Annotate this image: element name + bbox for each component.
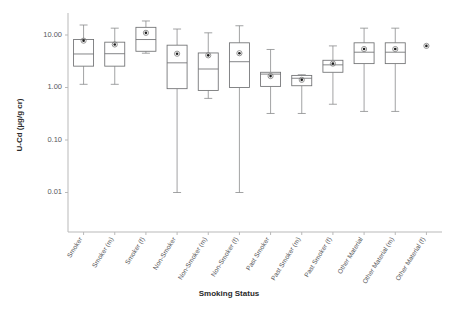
axis-titles: U-Cd (µg/g cr) Smoking Status [15, 98, 260, 298]
y-tick-label: 0.10 [47, 135, 62, 144]
y-tick-label: 10.00 [43, 30, 62, 39]
mean-marker [363, 48, 366, 51]
box-plot-item [354, 28, 374, 111]
box-plot-item [385, 28, 405, 111]
box-plot-item [323, 46, 343, 104]
box-plot-item [292, 75, 312, 114]
x-tick-label: Smoker [65, 235, 83, 259]
mean-marker [145, 32, 148, 35]
x-tick-label: Smoker (m) [90, 236, 115, 269]
x-tick-label: Non-Smoker (f) [209, 236, 240, 278]
x-tick-label: Non-Smoker [151, 235, 177, 271]
mean-marker [113, 43, 116, 46]
x-tick-label: Other Material (f) [394, 236, 427, 283]
box-series [74, 21, 429, 193]
box-iqr [354, 43, 374, 64]
mean-marker [332, 62, 335, 65]
box-plot-item [74, 25, 94, 84]
plot-canvas: 10.001.000.100.01 SmokerSmoker (m)Smoker… [0, 0, 450, 312]
box-plot-item [167, 29, 187, 192]
box-plot-chart: 10.001.000.100.01 SmokerSmoker (m)Smoker… [0, 0, 450, 312]
mean-marker [82, 39, 85, 42]
box-plot-item [198, 33, 218, 99]
box-iqr [198, 53, 218, 90]
mean-marker [176, 52, 179, 55]
x-tick-label: Past Smoker (f) [303, 236, 334, 279]
box-plot-item [424, 43, 429, 48]
box-plot-item [229, 26, 249, 193]
box-iqr [385, 43, 405, 64]
x-axis: SmokerSmoker (m)Smoker (f)Non-SmokerNon-… [65, 232, 442, 285]
x-tick-label: Other Material [336, 235, 364, 275]
mean-marker [394, 48, 397, 51]
box-plot-item [261, 49, 281, 113]
y-tick-label: 1.00 [47, 82, 62, 91]
mean-marker [425, 45, 428, 48]
x-tick-label: Other Material (m) [361, 236, 396, 286]
mean-marker [238, 52, 241, 55]
mean-marker [207, 54, 210, 57]
x-tick-label: Past Smoker (m) [269, 236, 302, 282]
box-plot-item [136, 21, 156, 53]
y-axis-title: U-Cd (µg/g cr) [15, 98, 24, 151]
mean-marker [300, 79, 303, 82]
x-tick-label: Non-Smoker (m) [176, 236, 209, 282]
box-iqr [229, 43, 249, 88]
box-iqr [167, 45, 187, 88]
box-plot-item [105, 28, 125, 84]
x-tick-label: Past Smoker [244, 235, 270, 271]
x-axis-title: Smoking Status [199, 289, 260, 298]
y-axis: 10.001.000.100.01 [43, 13, 68, 232]
x-tick-label: Smoker (f) [124, 236, 147, 266]
mean-marker [269, 75, 272, 78]
y-tick-label: 0.01 [47, 187, 62, 196]
